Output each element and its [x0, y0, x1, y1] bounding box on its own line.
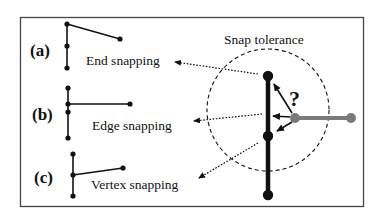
panel-a-tag: (a) [30, 41, 50, 60]
panel-b-tag: (b) [32, 105, 53, 124]
panel-c-tag: (c) [34, 168, 53, 187]
snapping-diagram: (a) (b) (c) End snapping Edge snapping V… [0, 0, 378, 215]
diagram-frame [21, 18, 364, 207]
arrow-to-edge [273, 116, 290, 117]
caption-vertex-snapping: Vertex snapping [91, 177, 179, 192]
caption-end-snapping: End snapping [86, 53, 160, 68]
caption-edge-snapping: Edge snapping [92, 118, 172, 133]
snap-tolerance-label: Snap tolerance [224, 32, 304, 47]
question-mark: ? [289, 86, 300, 111]
